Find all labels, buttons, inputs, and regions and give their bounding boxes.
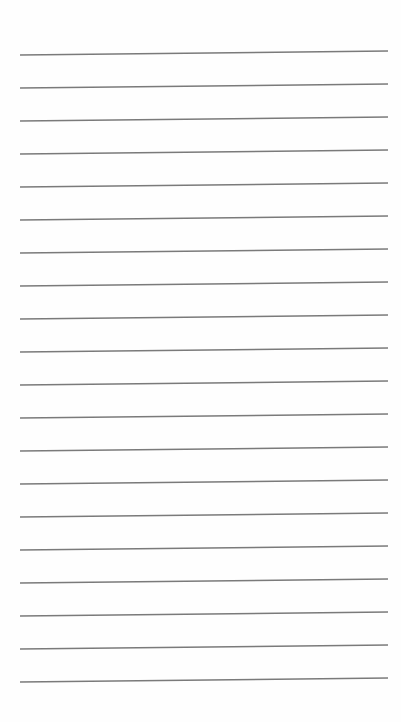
ruled-line (20, 348, 388, 352)
ruled-line (20, 315, 388, 319)
ruled-line (20, 117, 388, 121)
lined-paper (0, 0, 401, 722)
ruled-line (20, 414, 388, 418)
ruled-line (20, 282, 388, 286)
ruled-lines (0, 0, 401, 722)
ruled-line (20, 678, 388, 682)
ruled-line (20, 645, 388, 649)
ruled-line (20, 513, 388, 517)
ruled-line (20, 546, 388, 550)
ruled-line (20, 150, 388, 154)
ruled-line (20, 84, 388, 88)
ruled-line (20, 447, 388, 451)
ruled-line (20, 51, 388, 55)
ruled-line (20, 216, 388, 220)
ruled-line (20, 480, 388, 484)
ruled-line (20, 381, 388, 385)
ruled-line (20, 612, 388, 616)
ruled-line (20, 249, 388, 253)
ruled-line (20, 183, 388, 187)
ruled-line (20, 579, 388, 583)
